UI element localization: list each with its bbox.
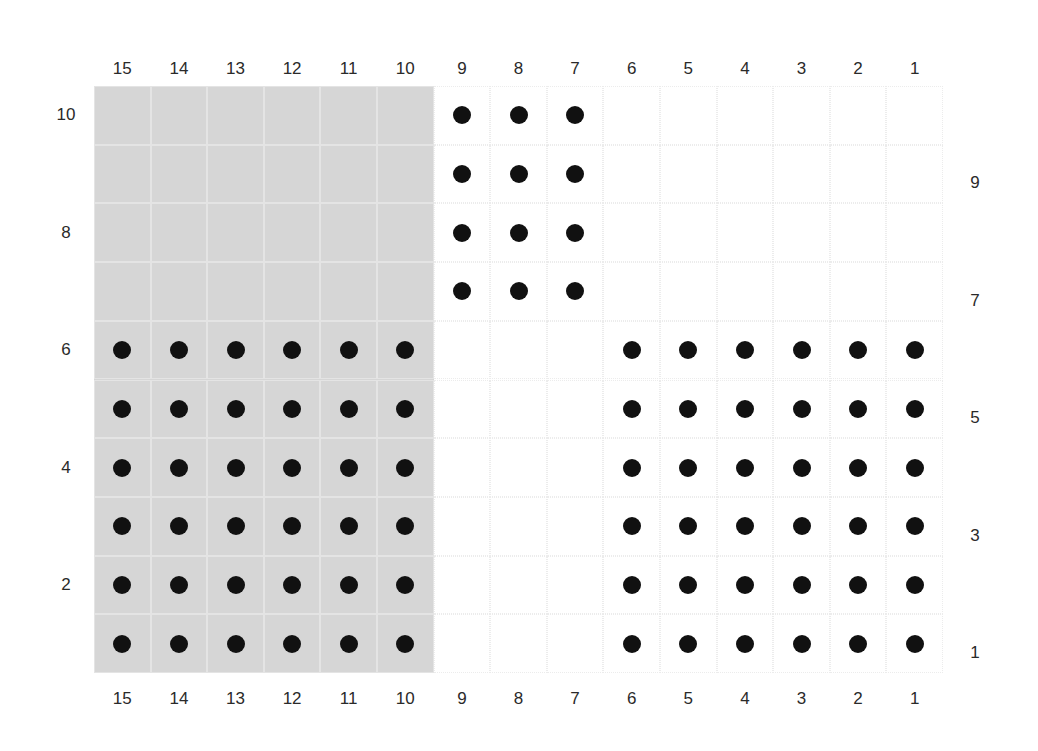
- grid-cell: [320, 203, 377, 262]
- column-label-bottom: 12: [283, 689, 302, 709]
- row-label-right: 5: [970, 408, 979, 428]
- grid-cell: [717, 262, 774, 321]
- column-label-top: 6: [627, 59, 636, 79]
- grid-cell: [603, 86, 660, 145]
- dot: [510, 106, 528, 124]
- dot: [793, 400, 811, 418]
- row-label-right: 9: [970, 173, 979, 193]
- dot: [283, 635, 301, 653]
- column-label-top: 14: [169, 59, 188, 79]
- dot: [340, 459, 358, 477]
- grid-cell: [547, 438, 604, 497]
- dot: [623, 400, 641, 418]
- dot: [453, 165, 471, 183]
- column-label-bottom: 7: [570, 689, 579, 709]
- dot: [227, 341, 245, 359]
- grid-cell: [151, 203, 208, 262]
- column-label-bottom: 13: [226, 689, 245, 709]
- dot: [623, 635, 641, 653]
- grid-cell: [377, 203, 434, 262]
- dot: [736, 635, 754, 653]
- column-label-top: 2: [853, 59, 862, 79]
- grid-cell: [320, 145, 377, 204]
- dot: [906, 517, 924, 535]
- grid-cell: [886, 145, 943, 204]
- dot: [736, 341, 754, 359]
- dot: [170, 341, 188, 359]
- grid-cell: [660, 262, 717, 321]
- column-label-bottom: 5: [684, 689, 693, 709]
- dot: [736, 459, 754, 477]
- dot: [227, 459, 245, 477]
- dot: [793, 576, 811, 594]
- dot: [566, 224, 584, 242]
- grid-cell: [490, 321, 547, 380]
- column-label-top: 10: [396, 59, 415, 79]
- grid-cell: [377, 86, 434, 145]
- grid-cell: [434, 380, 491, 439]
- dot: [340, 341, 358, 359]
- row-label-left: 8: [61, 223, 70, 243]
- grid-cell: [773, 203, 830, 262]
- column-label-top: 11: [340, 59, 358, 79]
- grid-cell: [151, 262, 208, 321]
- dot: [623, 517, 641, 535]
- grid-cell: [434, 438, 491, 497]
- grid-cell: [207, 203, 264, 262]
- grid-cell: [94, 262, 151, 321]
- grid-cell: [773, 86, 830, 145]
- grid-cell: [490, 438, 547, 497]
- grid-cell: [434, 556, 491, 615]
- grid-cell: [830, 145, 887, 204]
- dot: [227, 400, 245, 418]
- dot: [679, 635, 697, 653]
- grid-cell: [490, 497, 547, 556]
- grid-cell: [94, 86, 151, 145]
- column-label-bottom: 8: [514, 689, 523, 709]
- grid-cell: [603, 145, 660, 204]
- dot: [793, 635, 811, 653]
- column-label-bottom: 10: [396, 689, 415, 709]
- column-label-top: 4: [740, 59, 749, 79]
- dot: [906, 459, 924, 477]
- grid-cell: [264, 203, 321, 262]
- grid-cell: [547, 497, 604, 556]
- dot: [113, 459, 131, 477]
- grid-cell: [886, 86, 943, 145]
- grid-cell: [434, 321, 491, 380]
- dot: [679, 459, 697, 477]
- column-label-bottom: 15: [113, 689, 132, 709]
- grid-cell: [603, 262, 660, 321]
- dot: [396, 459, 414, 477]
- grid-cell: [830, 203, 887, 262]
- dot: [623, 341, 641, 359]
- grid-cell: [320, 86, 377, 145]
- dot: [340, 576, 358, 594]
- dot: [906, 635, 924, 653]
- grid-cell: [660, 203, 717, 262]
- dot: [283, 459, 301, 477]
- grid-cell: [377, 262, 434, 321]
- row-label-right: 7: [970, 291, 979, 311]
- column-label-top: 13: [226, 59, 245, 79]
- dot: [906, 576, 924, 594]
- grid-cell: [490, 380, 547, 439]
- grid-cell: [94, 203, 151, 262]
- column-label-top: 9: [457, 59, 466, 79]
- dot: [453, 224, 471, 242]
- grid-cell: [547, 380, 604, 439]
- dot: [510, 224, 528, 242]
- dot: [793, 517, 811, 535]
- column-label-bottom: 4: [740, 689, 749, 709]
- grid-cell: [886, 203, 943, 262]
- dot: [793, 459, 811, 477]
- column-label-bottom: 2: [853, 689, 862, 709]
- grid-cell: [207, 145, 264, 204]
- grid-cell: [886, 262, 943, 321]
- row-label-left: 4: [61, 458, 70, 478]
- dot: [283, 400, 301, 418]
- grid-cell: [660, 145, 717, 204]
- column-label-bottom: 11: [340, 689, 358, 709]
- row-label-right: 1: [970, 643, 979, 663]
- grid-cell: [434, 497, 491, 556]
